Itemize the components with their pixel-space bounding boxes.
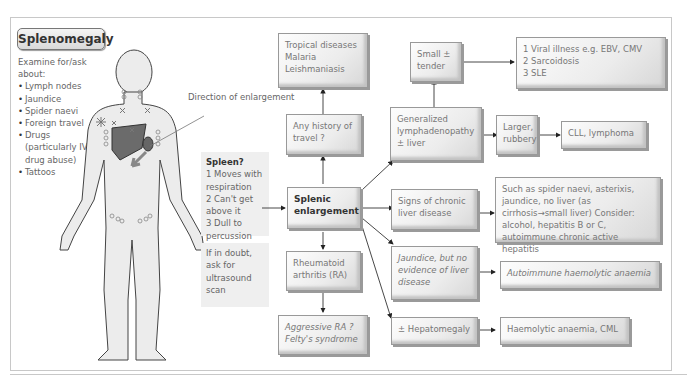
node-cll-lymphoma: CLL, lymphoma [561,121,647,149]
node-hepatomegaly: ± Hepatomegaly [391,317,478,345]
node-rheumatoid-arthritis: Rheumatoid arthritis (RA) [286,251,361,291]
node-chronic-liver-detail: Such as spider naevi, asterixis, jaundic… [495,177,661,243]
node-splenic-enlargement: Splenic enlargement [287,187,361,229]
node-autoimmune-haemolytic: Autoimmune haemolytic anaemia [500,261,660,289]
node-larger-rubbery: Larger, rubbery [496,115,538,155]
node-small-tender: Small ± tender [410,42,462,82]
node-generalized-lymphadenopathy: Generalized lymphadenopathy ± liver [390,107,482,161]
node-tropical-diseases: Tropical diseases Malaria Leishmaniasis [278,33,368,88]
node-viral-illness: 1 Viral illness e.g. EBV, CMV 2 Sarcoido… [516,37,666,89]
node-haemolytic-cml: Haemolytic anaemia, CML [500,317,630,345]
node-jaundice-no-liver: Jaundice, but no evidence of liver disea… [391,246,478,300]
node-aggressive-ra: Aggressive RA ?Felty's syndrome [278,315,368,355]
node-travel-history: Any history of travel ? [286,114,362,155]
node-chronic-liver-disease: Signs of chronic liver disease [391,189,478,230]
